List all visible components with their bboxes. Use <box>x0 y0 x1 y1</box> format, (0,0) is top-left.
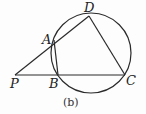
circle <box>51 13 131 93</box>
label-A: A <box>41 32 51 47</box>
geometry-diagram: D A P B C (b) <box>0 0 146 114</box>
label-C: C <box>126 73 136 88</box>
segment-PD <box>15 16 89 75</box>
label-P: P <box>9 76 19 91</box>
caption: (b) <box>63 96 79 109</box>
label-D: D <box>83 0 95 15</box>
label-B: B <box>48 76 59 91</box>
diagram-svg: D A P B C (b) <box>0 0 146 114</box>
